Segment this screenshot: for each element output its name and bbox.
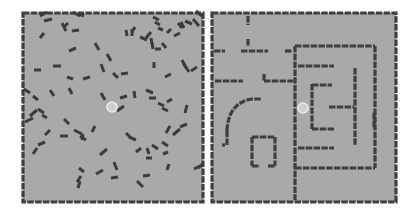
agent-ball bbox=[298, 103, 308, 113]
obstacle-rod bbox=[82, 134, 83, 140]
obstacle-rod bbox=[167, 164, 169, 170]
obstacle-rod bbox=[185, 105, 187, 113]
obstacle-rod bbox=[121, 73, 128, 74]
obstacle-rod bbox=[134, 91, 135, 98]
obstacle-rod bbox=[79, 14, 84, 16]
agent-ball bbox=[107, 102, 117, 112]
scene-canvas bbox=[0, 0, 415, 213]
obstacle-rod bbox=[72, 30, 79, 31]
obstacle-rod bbox=[151, 38, 152, 44]
obstacle-rod bbox=[83, 77, 90, 79]
obstacle-rod bbox=[78, 181, 80, 188]
obstacle-rod bbox=[143, 175, 150, 176]
obstacle-rod bbox=[158, 28, 163, 30]
obstacle-rod bbox=[147, 148, 149, 154]
random-obstacles-panel bbox=[23, 11, 203, 202]
obstacle-rod bbox=[163, 152, 168, 154]
obstacle-rod bbox=[44, 19, 52, 21]
obstacle-rod bbox=[111, 177, 118, 178]
maze-panel bbox=[212, 13, 396, 202]
obstacle-rod bbox=[120, 96, 127, 98]
obstacle-rod bbox=[67, 77, 73, 79]
obstacle-rod bbox=[126, 30, 127, 36]
